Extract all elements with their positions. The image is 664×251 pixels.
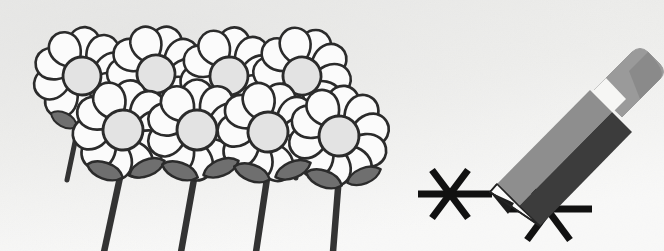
illustration-scene: Black and white illustration: a cluster … — [0, 0, 664, 251]
illustration-canvas — [0, 0, 664, 251]
flower-center — [177, 110, 217, 150]
